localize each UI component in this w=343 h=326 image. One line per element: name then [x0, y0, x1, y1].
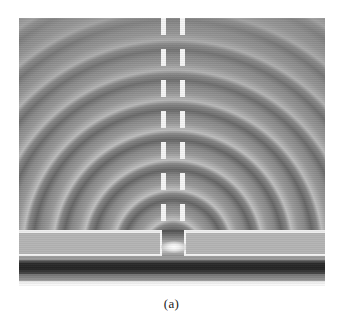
- point-source-hotspot: [161, 241, 187, 253]
- layer-transition: [19, 274, 325, 281]
- figure-panel: (a): [0, 0, 343, 326]
- layer-absorbing: [19, 260, 325, 274]
- aperture-edge-left: [160, 230, 162, 256]
- layer-bright: [19, 281, 325, 286]
- figure-caption: (a): [0, 296, 343, 312]
- guide-wall-left: [161, 18, 166, 234]
- guide-wall-right: [180, 18, 185, 234]
- field-top-vignette: [19, 18, 325, 234]
- simulation-field: [19, 18, 325, 286]
